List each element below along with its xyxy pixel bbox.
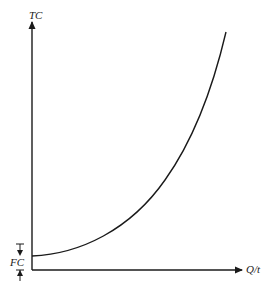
cost-diagram [0, 0, 273, 294]
fc-bottom-arrow-icon [16, 270, 24, 281]
fc-top-arrow-icon [16, 244, 24, 256]
y-axis-label: TC [29, 10, 42, 21]
x-axis-label: Q/t [246, 264, 260, 275]
total-cost-curve [32, 32, 226, 256]
fixed-cost-label: FC [10, 257, 24, 268]
